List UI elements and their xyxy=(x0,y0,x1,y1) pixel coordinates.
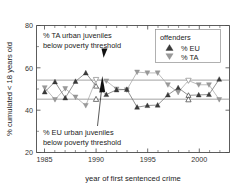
annotation-ta-line2: below poverty threshold xyxy=(43,41,121,50)
x-tick-label-2000: 2000 xyxy=(191,155,207,164)
series-markers-eu xyxy=(42,70,221,109)
legend[interactable]: offenders % EU % TA xyxy=(156,30,221,63)
x-axis-title: year of first sentenced crime xyxy=(85,174,180,183)
annotation-eu-poverty: % EU urban juveniles below poverty thres… xyxy=(43,76,121,147)
data-point-eu xyxy=(217,77,222,82)
y-axis-tick-labels: 80 60 40 20 xyxy=(25,21,33,157)
series-markers-ta xyxy=(42,70,221,108)
data-point-eu xyxy=(83,70,88,75)
data-point-ta xyxy=(176,90,181,95)
chart-figure: 80 60 40 20 % cumulated < 18 years old xyxy=(0,0,239,196)
data-point-ta xyxy=(104,79,109,84)
data-point-ta xyxy=(53,98,58,103)
annotation-eu-line1: % EU urban juveniles xyxy=(43,128,114,137)
legend-label-ta[interactable]: % TA xyxy=(181,53,198,62)
data-point-ta xyxy=(83,103,88,108)
legend-title: offenders xyxy=(160,33,191,42)
x-tick-label-1985: 1985 xyxy=(37,155,53,164)
y-tick-label-80: 80 xyxy=(25,21,33,30)
x-axis-tick-labels: 1985 1990 1995 2000 xyxy=(37,155,208,164)
x-tick-label-1995: 1995 xyxy=(140,155,156,164)
x-tick-label-1990: 1990 xyxy=(88,155,104,164)
data-point-ta xyxy=(165,83,170,88)
y-tick-label-40: 40 xyxy=(25,106,33,115)
data-point-eu xyxy=(63,95,68,100)
y-tick-label-20: 20 xyxy=(25,148,33,157)
y-tick-label-60: 60 xyxy=(25,64,33,73)
y-axis-title: % cumulated < 18 years old xyxy=(5,42,14,136)
annotation-ta-arrow-icon xyxy=(102,49,108,58)
chart-plot-area: 80 60 40 20 % cumulated < 18 years old xyxy=(0,0,239,196)
legend-label-eu[interactable]: % EU xyxy=(181,44,200,53)
annotation-eu-line2: below poverty threshold xyxy=(43,138,121,147)
data-point-eu xyxy=(176,85,181,90)
annotation-eu-arrow-icon xyxy=(99,76,105,93)
series-line-eu xyxy=(45,73,220,107)
annotation-ta-poverty: % TA urban juveniles below poverty thres… xyxy=(43,31,121,58)
data-point-ta xyxy=(217,98,222,103)
annotation-ta-line1: % TA urban juveniles xyxy=(43,31,112,40)
data-point-eu xyxy=(165,92,170,97)
